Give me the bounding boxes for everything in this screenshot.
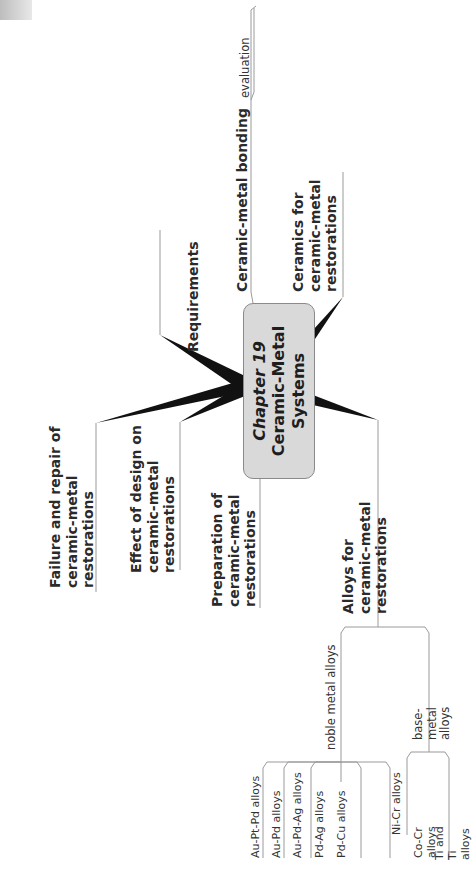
leaf-au-pd: Au-Pd alloys — [271, 791, 284, 858]
branch-preparation: Preparation of ceramic-metal restoration… — [209, 493, 259, 607]
connector-alloys — [313, 395, 378, 420]
branch-base-metal-alloys: base-metal alloys — [412, 681, 453, 740]
branch-effect-design: Effect of design on ceramic-metal restor… — [128, 425, 178, 573]
branch-failure-repair: Failure and repair of ceramic-metal rest… — [47, 427, 97, 589]
leaf-pd-cu: Pd-Cu alloys — [336, 790, 349, 858]
branch-ceramic-metal-bonding: Ceramic-metal bonding — [234, 108, 251, 292]
leaf-au-pt-pd: Au-Pt-Pd alloys — [250, 776, 263, 858]
leaf-au-pd-ag: Au-Pd-Ag alloys — [292, 772, 305, 858]
central-title-chapter: Chapter 19 — [250, 341, 269, 441]
branch-alloys: Alloys for ceramic-metal restorations — [340, 483, 390, 614]
central-title-line2: Ceramic-Metal — [269, 326, 288, 456]
central-title-line3: Systems — [289, 353, 308, 429]
branch-ceramics: Ceramics for ceramic-metal restorations — [290, 179, 340, 292]
central-node: Chapter 19 Ceramic-Metal Systems — [243, 303, 315, 479]
branch-requirements: Requirements — [185, 241, 202, 352]
leaf-pd-ag: Pd-Ag alloys — [314, 791, 327, 858]
connector-ceramics — [313, 297, 343, 342]
branch-evaluation: evaluation — [239, 38, 253, 99]
branch-noble-metal-alloys: noble metal alloys — [325, 644, 339, 750]
leaf-ti: Ti and Ti alloys — [434, 823, 473, 860]
leaf-ni-cr: Ni-Cr alloys — [391, 772, 404, 835]
connector-requirements — [160, 335, 245, 392]
